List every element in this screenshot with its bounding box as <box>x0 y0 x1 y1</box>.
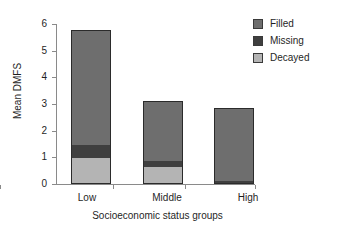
y-axis-tick-1 <box>52 157 56 158</box>
bar-high <box>214 108 254 184</box>
y-axis-title: Mean DMFS <box>13 51 23 131</box>
bar-high-segment-missing <box>214 181 254 184</box>
legend-swatch-decayed-icon <box>253 53 263 63</box>
x-axis-label-high: High <box>213 192 283 203</box>
y-axis-tick-6 <box>52 24 56 25</box>
y-axis-label-6: 6 <box>17 19 47 29</box>
bar-high-segment-filled <box>214 108 254 181</box>
y-axis-tick-2 <box>52 131 56 132</box>
bar-low <box>71 30 111 184</box>
legend-item-decayed: Decayed <box>253 50 339 67</box>
bar-middle-segment-filled <box>143 101 183 161</box>
legend-label-filled: Filled <box>270 18 294 29</box>
bar-middle-segment-decayed <box>143 167 183 184</box>
x-axis-label-low: Low <box>52 192 122 203</box>
bar-middle <box>143 101 183 184</box>
legend-item-filled: Filled <box>253 16 339 33</box>
chart-figure: 6 5 4 3 2 1 0 Mean DMFS Low Middle High … <box>0 0 339 230</box>
legend-swatch-filled-icon <box>253 19 263 29</box>
x-axis-tick-middle <box>185 185 186 189</box>
legend-item-missing: Missing <box>253 33 339 50</box>
x-axis-tick-high <box>255 185 256 189</box>
chart-legend: Filled Missing Decayed <box>253 16 339 67</box>
x-axis-tick-spacer-a <box>0 185 1 189</box>
x-axis-tick-low <box>113 185 114 189</box>
y-axis-label-1: 1 <box>17 152 47 162</box>
bar-low-segment-missing <box>71 145 111 158</box>
y-axis-tick-3 <box>52 104 56 105</box>
y-axis-tick-5 <box>52 51 56 52</box>
legend-swatch-missing-icon <box>253 36 263 46</box>
legend-label-missing: Missing <box>270 35 304 46</box>
x-axis-line <box>56 184 255 185</box>
bar-low-segment-filled <box>71 30 111 145</box>
bar-low-segment-decayed <box>71 158 111 184</box>
y-axis-line <box>56 24 57 185</box>
x-axis-label-middle: Middle <box>132 192 202 203</box>
x-axis-title: Socioeconomic status groups <box>40 210 275 221</box>
y-axis-tick-4 <box>52 77 56 78</box>
y-axis-label-0: 0 <box>17 179 47 189</box>
legend-label-decayed: Decayed <box>270 52 309 63</box>
